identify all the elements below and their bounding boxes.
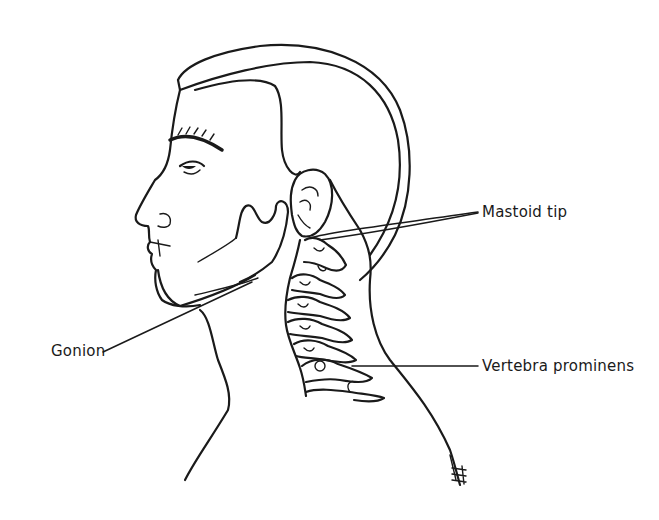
leader-mastoid-tip xyxy=(310,212,478,238)
head-neck-illustration xyxy=(0,0,659,520)
ear xyxy=(291,170,332,237)
cervical-vertebrae xyxy=(285,238,384,401)
hair-outline xyxy=(170,45,410,280)
mandible xyxy=(195,201,288,295)
leader-gonion xyxy=(103,282,252,352)
eye xyxy=(170,127,222,174)
anatomy-figure: Mastoid tip Vertebra prominens Gonion xyxy=(0,0,659,520)
label-vertebra-prominens: Vertebra prominens xyxy=(482,357,634,375)
label-gonion: Gonion xyxy=(51,342,105,360)
label-mastoid-tip: Mastoid tip xyxy=(482,203,567,221)
